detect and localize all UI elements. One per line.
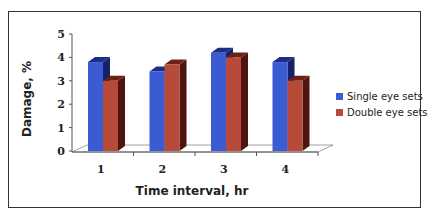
legend-label-double: Double eye sets bbox=[347, 107, 428, 118]
x-tick-label: 3 bbox=[220, 163, 228, 176]
x-tick-label: 2 bbox=[158, 163, 166, 176]
legend-swatch-single bbox=[336, 93, 343, 100]
bar-double-2 bbox=[165, 59, 187, 151]
y-tick-label: 2 bbox=[57, 98, 65, 111]
bar-double-4 bbox=[288, 76, 310, 151]
y-tick-label: 4 bbox=[57, 51, 65, 64]
y-tick-label: 5 bbox=[57, 28, 65, 41]
legend: Single eye sets Double eye sets bbox=[336, 88, 428, 120]
legend-label-single: Single eye sets bbox=[347, 91, 423, 102]
legend-item-single: Single eye sets bbox=[336, 88, 428, 104]
legend-item-double: Double eye sets bbox=[336, 104, 428, 120]
x-tick-label: 1 bbox=[97, 163, 105, 176]
y-tick-label: 3 bbox=[57, 75, 65, 88]
bar-double-3 bbox=[226, 52, 248, 151]
x-tick-label: 4 bbox=[281, 163, 289, 176]
y-tick-label: 0 bbox=[57, 145, 65, 158]
y-tick-label: 1 bbox=[57, 122, 65, 135]
bar-double-1 bbox=[103, 76, 125, 151]
legend-swatch-double bbox=[336, 109, 343, 116]
